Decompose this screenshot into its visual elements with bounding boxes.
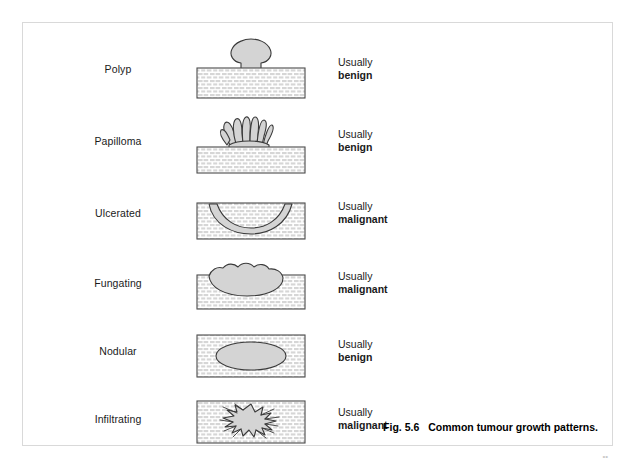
verdict-term: benign [338, 69, 372, 81]
diagram-polyp [179, 37, 319, 101]
verdict-fungating: Usually malignant [338, 270, 388, 296]
diagram-infiltrating [179, 387, 319, 451]
corner-mark: •• [602, 452, 608, 461]
table-row: Papilloma Usually [23, 109, 612, 173]
verdict-term: benign [338, 141, 372, 153]
figure-number: Fig. 5.6 [383, 421, 419, 433]
diagram-fungating [179, 251, 319, 315]
table-row: Fungating Usually malignant [23, 251, 612, 315]
diagram-papilloma [179, 109, 319, 173]
diagram-nodular [179, 319, 319, 383]
verdict-infiltrating: Usually malignant [338, 406, 388, 432]
verdict-prefix: Usually [338, 338, 372, 350]
table-row: Polyp [23, 37, 612, 101]
figure-caption: Fig. 5.6Common tumour growth patterns. [383, 421, 598, 433]
verdict-term: malignant [338, 419, 388, 431]
table-row: Ulcerated Usually malignant [23, 181, 612, 245]
verdict-term: benign [338, 351, 372, 363]
diagram-ulcerated [179, 181, 319, 245]
verdict-term: malignant [338, 213, 388, 225]
table-row: Nodular Usually benign [23, 319, 612, 383]
verdict-nodular: Usually benign [338, 338, 372, 364]
figure-page: Polyp [22, 22, 613, 446]
table-row: Infiltrating [23, 387, 612, 451]
verdict-prefix: Usually [338, 406, 372, 418]
verdict-prefix: Usually [338, 128, 372, 140]
pattern-rows: Polyp [23, 23, 612, 445]
figure-caption-text: Common tumour growth patterns. [428, 421, 598, 433]
verdict-term: malignant [338, 283, 388, 295]
verdict-papilloma: Usually benign [338, 128, 372, 154]
verdict-prefix: Usually [338, 270, 372, 282]
verdict-ulcerated: Usually malignant [338, 200, 388, 226]
verdict-prefix: Usually [338, 56, 372, 68]
verdict-polyp: Usually benign [338, 56, 372, 82]
verdict-prefix: Usually [338, 200, 372, 212]
